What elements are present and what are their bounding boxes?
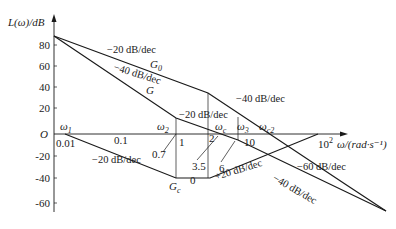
omega3-label: ω3	[237, 120, 249, 135]
g0-label: G0	[150, 58, 162, 73]
g-label: G	[146, 84, 154, 96]
pointer-6	[221, 141, 235, 162]
slope-gc-rise: +20 dB/dec	[213, 157, 263, 182]
y-tick-neg20: -20	[35, 150, 50, 162]
value-0.7: 0.7	[152, 148, 166, 160]
bode-diagram: 80 60 40 20 O -20 -40 -60 L(ω)/dB 0.01 0…	[0, 0, 396, 229]
pointer-3.5	[197, 136, 218, 160]
value-3.5: 3.5	[192, 160, 206, 172]
slope-g0-first: −20 dB/dec	[107, 44, 156, 55]
x-axis-arrow-icon	[340, 132, 348, 137]
omega1-label: ω1	[60, 120, 72, 135]
y-axis-arrow-icon	[52, 14, 57, 22]
gc-label: Gc	[169, 180, 181, 195]
y-tick-20: 20	[39, 102, 51, 114]
y-axis-label: L(ω)/dB	[7, 16, 45, 29]
slope-gc-flat: 0	[190, 174, 196, 186]
slope-g-mid: −20 dB/dec	[179, 109, 228, 120]
origin-label: O	[40, 128, 48, 140]
slope-g0-second: −40 dB/dec	[236, 93, 285, 104]
y-tick-neg40: -40	[35, 172, 50, 184]
x-tick-1: 1	[179, 136, 185, 148]
y-tick-neg60: -60	[35, 197, 50, 209]
y-tick-40: 40	[39, 81, 51, 93]
slope-g0-third: −60 dB/dec	[297, 161, 346, 172]
y-tick-80: 80	[39, 39, 51, 51]
y-tick-60: 60	[39, 60, 51, 72]
x-tick-100: 102	[318, 136, 333, 150]
x-tick-0.1: 0.1	[114, 134, 128, 146]
slope-gc-first: −20 dB/dec	[92, 154, 141, 165]
omegac2-label: ωc2	[259, 120, 274, 135]
x-tick-0.01: 0.01	[56, 137, 75, 149]
x-axis-label: ω/(rad·s⁻¹)	[337, 138, 387, 151]
slope-g-last: −40 dB/dec	[271, 172, 319, 206]
omega2-label: ω2	[157, 120, 169, 135]
value-2: 2	[209, 132, 215, 144]
